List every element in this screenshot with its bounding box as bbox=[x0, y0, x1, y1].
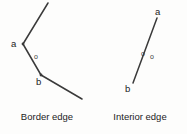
border-edge-vertex-a-dot bbox=[22, 43, 25, 46]
interior-edge-marker-o-right: o bbox=[150, 53, 154, 60]
interior-edge-geometry bbox=[133, 18, 157, 83]
interior-edge-label-a: a bbox=[155, 7, 160, 17]
interior-edge-label-b: b bbox=[125, 84, 130, 94]
interior-edge-marker-o-left: o bbox=[141, 50, 145, 57]
border-edge-label-b: b bbox=[36, 77, 41, 87]
border-edge-label-a: a bbox=[11, 39, 16, 49]
interior-edge-polyline bbox=[133, 18, 157, 83]
edge-classification-figure: a b o a b o o Border edge Interior edge bbox=[0, 0, 187, 134]
caption-interior-edge: Interior edge bbox=[93, 112, 187, 122]
caption-border-edge: Border edge bbox=[0, 112, 94, 122]
border-edge-polyline bbox=[23, 3, 82, 99]
border-edge-marker-o: o bbox=[34, 53, 38, 60]
border-edge-geometry bbox=[22, 3, 82, 99]
